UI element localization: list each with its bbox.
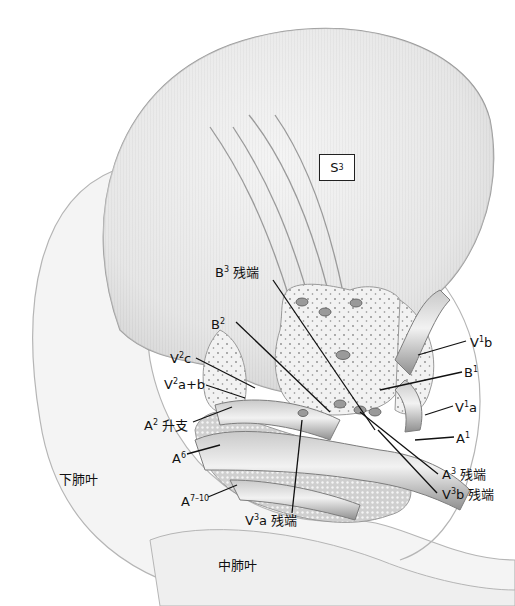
lower-lobe-label: 下肺叶 [59,473,98,487]
segment-base: S [330,160,338,175]
label-a6: A6 [172,452,186,466]
lung-anatomy-illustration: S3 下肺叶 中肺叶 B3 残端 B2 V2c V2a+b A2 升支 A6 A… [0,0,515,606]
label-v2c: V2c [170,352,191,366]
label-a3-stump: A3 残端 [442,468,486,482]
label-v1a: V1a [455,401,477,415]
label-b3-stump: B3 残端 [215,266,259,280]
label-v3a-stump: V3a 残端 [245,514,297,528]
segment-s3-label: S3 [319,154,355,181]
label-a1: A1 [456,432,470,446]
label-b2: B2 [211,318,225,332]
label-v2ab: V2a+b [164,378,205,392]
label-a7-10: A7–10 [181,495,209,509]
middle-lobe-label: 中肺叶 [218,559,257,573]
label-v3b-stump: V3b 残端 [442,488,494,502]
label-a2-ascending: A2 升支 [144,419,188,433]
cut-surface [275,284,405,415]
label-v1b: V1b [470,336,492,350]
label-b1: B1 [464,366,478,380]
